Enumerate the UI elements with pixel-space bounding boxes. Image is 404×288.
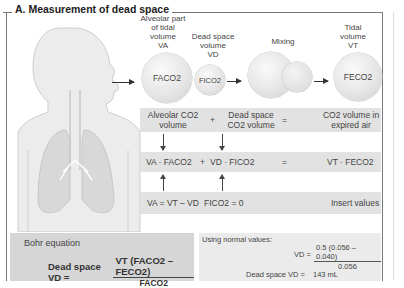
normal-heading: Using normal values: <box>202 235 272 244</box>
tidal-sphere: FECO2 <box>334 53 382 101</box>
bohr-heading: Bohr equation <box>24 238 80 248</box>
human-torso-illustration <box>8 20 148 232</box>
deadspace-term: VD · FICO2 <box>210 157 254 167</box>
alveolar-label-line: of tidal <box>133 23 193 32</box>
expired-co2-volume: CO2 volume in expired air <box>320 110 382 130</box>
bohr-numerator: VT (FACO2 – FECO2) <box>113 255 194 278</box>
equals-sign: = <box>282 115 287 125</box>
alveolar-co2-volume: Alveolar CO2 volume <box>142 110 204 130</box>
insert-values-label: Insert values <box>331 198 379 208</box>
down-arrow-b <box>222 134 223 150</box>
normal-numerator: 0.5 (0.056 – 0.040) <box>314 243 381 262</box>
equals-sign-2: = <box>282 157 287 167</box>
up-arrow-a <box>163 175 164 191</box>
down-arrow-a <box>163 134 164 150</box>
normal-denominator: 0.056 <box>338 262 357 271</box>
deadspace-label-line: volume <box>188 41 238 50</box>
deadspace-co2-volume: Dead space CO2 volume <box>220 110 282 130</box>
alveolar-symbol: VA <box>133 41 193 50</box>
bohr-lhs: Dead space VD = <box>48 261 110 283</box>
deadspace-symbol: VD <box>188 50 238 59</box>
to-mixing-arrow <box>227 81 241 82</box>
mixing-label: Mixing <box>258 37 308 46</box>
bohr-denominator: FACO2 <box>140 278 168 288</box>
plus-sign-2: + <box>200 157 205 167</box>
result-label: Dead space VD = <box>246 270 305 279</box>
deadspace-sphere: FICO2 <box>195 65 225 95</box>
to-tidal-arrow <box>314 81 328 82</box>
expired-term: VT · FECO2 <box>327 157 374 167</box>
vd-label: VD = <box>294 250 311 259</box>
tidal-label-line: Tidal <box>328 23 378 32</box>
exhale-arrow <box>112 82 134 83</box>
fi-zero: FICO2 = 0 <box>204 198 243 208</box>
bohr-fraction: VT (FACO2 – FECO2) FACO2 <box>113 255 194 288</box>
alveolar-label-line: volume <box>133 32 193 41</box>
deadspace-label-line: Dead space <box>188 32 238 41</box>
alveolar-sphere: FACO2 <box>142 53 192 103</box>
alveolar-label-line: Alveolar part <box>133 14 193 23</box>
title-rule <box>3 12 11 13</box>
alveolar-term: VA · FACO2 <box>146 157 192 167</box>
plus-sign: + <box>210 115 215 125</box>
tidal-symbol: VT <box>328 41 378 50</box>
normal-values-box: Using normal values: VD = 0.5 (0.056 – 0… <box>199 233 381 281</box>
va-substitution: VA = VT – VD <box>147 198 199 208</box>
result-value: 143 mL <box>313 270 338 279</box>
up-arrow-b <box>222 175 223 191</box>
mixing-sphere-small <box>282 62 312 92</box>
tidal-label-line: volume <box>328 32 378 41</box>
page-edge <box>393 12 394 280</box>
bohr-equation-box: Bohr equation Dead space VD = VT (FACO2 … <box>10 233 194 281</box>
